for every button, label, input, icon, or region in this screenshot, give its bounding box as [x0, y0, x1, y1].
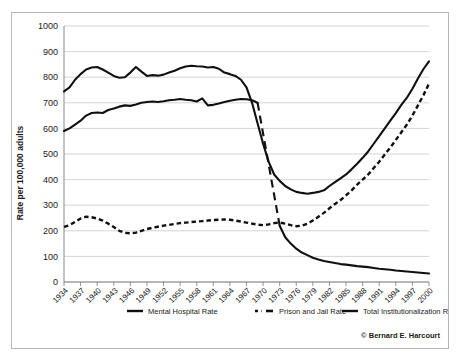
legend-item: Prison and Jail Rate [255, 307, 346, 316]
series-path [64, 98, 258, 131]
x-tick-label: 1988 [350, 286, 369, 305]
x-tick-label: 1967 [233, 286, 252, 305]
x-tick-label: 1982 [316, 286, 335, 305]
legend-item: Mental Hospital Rate [127, 307, 218, 316]
x-tick-label: 1964 [217, 286, 236, 305]
chart-legend: Mental Hospital RatePrison and Jail Rate… [127, 307, 448, 316]
series-path [64, 61, 429, 193]
legend-label: Total Institutionalization Rate [363, 307, 448, 316]
x-tick-label: 1940 [84, 286, 103, 305]
y-tick-label: 700 [43, 98, 58, 108]
gridlines-group [64, 26, 429, 282]
chart-figure: 01002003004005006007008009001000 1934193… [0, 0, 461, 363]
y-tick-label: 800 [43, 72, 58, 82]
legend-label: Prison and Jail Rate [279, 307, 346, 316]
x-tick-label: 1973 [267, 286, 286, 305]
y-tick-label: 900 [43, 47, 58, 57]
x-tick-label: 1976 [283, 286, 302, 305]
x-tick-label: 1955 [167, 286, 186, 305]
x-tick-label: 1994 [383, 286, 402, 305]
chart-plot-frame: 01002003004005006007008009001000 1934193… [11, 12, 449, 349]
series-path [280, 226, 429, 274]
data-series-group [64, 61, 429, 273]
legend-item: Total Institutionalization Rate [342, 307, 448, 316]
y-tick-label: 400 [43, 175, 58, 185]
copyright-credit: © Bernard E. Harcourt [361, 331, 440, 340]
x-tick-label: 1991 [366, 286, 385, 305]
y-tick-label: 600 [43, 124, 58, 134]
x-tick-label: 1946 [117, 286, 136, 305]
y-axis-tick-labels: 01002003004005006007008009001000 [38, 21, 58, 287]
x-tick-label: 1961 [200, 286, 219, 305]
x-tick-label: 1970 [250, 286, 269, 305]
x-tick-label: 1985 [333, 286, 352, 305]
x-tick-label: 1949 [134, 286, 153, 305]
x-tick-label: 1937 [68, 286, 87, 305]
x-tick-label: 2000 [416, 286, 435, 305]
x-tick-label: 1958 [184, 286, 203, 305]
y-tick-label: 300 [43, 200, 58, 210]
x-tick-label: 1952 [151, 286, 170, 305]
y-axis-title: Rate per 100,000 adults [15, 125, 25, 220]
y-tick-label: 200 [43, 226, 58, 236]
y-tick-label: 1000 [38, 21, 58, 31]
x-tick-label: 1934 [51, 286, 70, 305]
y-tick-label: 500 [43, 149, 58, 159]
x-tick-label: 1997 [399, 286, 418, 305]
line-chart: 01002003004005006007008009001000 1934193… [12, 13, 448, 348]
x-tick-label: 1943 [101, 286, 120, 305]
x-tick-label: 1979 [300, 286, 319, 305]
y-tick-label: 0 [53, 277, 58, 287]
legend-label: Mental Hospital Rate [148, 307, 218, 316]
y-tick-label: 100 [43, 252, 58, 262]
x-axis-tick-labels: 1934193719401943194619491952195519581961… [51, 282, 435, 305]
